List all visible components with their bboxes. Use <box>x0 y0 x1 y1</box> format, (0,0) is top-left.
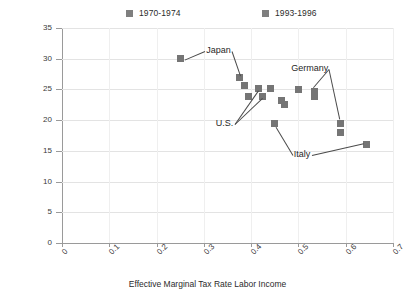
y-tick-label: 30 <box>28 54 52 63</box>
legend-swatch-icon <box>126 10 133 17</box>
chart-legend: 1970-1974 1993-1996 <box>0 7 415 25</box>
legend-item-1993-1996[interactable]: 1993-1996 <box>262 8 317 18</box>
y-tick-label: 5 <box>28 207 52 216</box>
annotation-label-japan: Japan <box>206 45 231 55</box>
data-point[interactable] <box>337 120 344 127</box>
data-point[interactable] <box>271 120 278 127</box>
legend-label: 1970-1974 <box>139 8 181 18</box>
y-tick-label: 25 <box>28 84 52 93</box>
data-point[interactable] <box>281 101 288 108</box>
data-point[interactable] <box>241 82 248 89</box>
y-tick-label: 0 <box>28 238 52 247</box>
annotation-label-germany: Germany <box>291 63 328 73</box>
data-point[interactable] <box>267 85 274 92</box>
data-point[interactable] <box>295 86 302 93</box>
annotation-label-us: U.S. <box>216 118 234 128</box>
legend-item-1970-1974[interactable]: 1970-1974 <box>126 8 181 18</box>
data-point[interactable] <box>363 141 370 148</box>
x-tick-label: 0 <box>60 247 70 257</box>
y-tick-label: 35 <box>28 23 52 32</box>
data-point[interactable] <box>311 93 318 100</box>
data-point[interactable] <box>177 55 184 62</box>
data-point[interactable] <box>337 129 344 136</box>
legend-swatch-icon <box>262 10 269 17</box>
scatter-chart: 1970-1974 1993-1996 05101520253035 00.10… <box>0 0 415 300</box>
gridline-vertical <box>393 28 394 243</box>
y-tick-label: 15 <box>28 146 52 155</box>
y-tick-label: 10 <box>28 177 52 186</box>
annotation-label-italy: Italy <box>294 149 311 159</box>
x-axis-title: Effective Marginal Tax Rate Labor Income <box>0 279 415 289</box>
legend-label: 1993-1996 <box>275 8 317 18</box>
y-tick-label: 20 <box>28 115 52 124</box>
